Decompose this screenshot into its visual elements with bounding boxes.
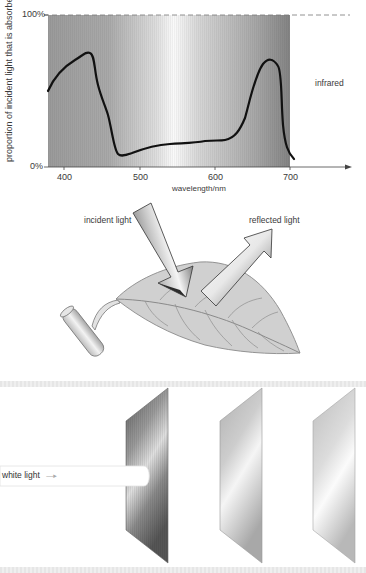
- filter-diagram: white light —▸: [0, 387, 366, 567]
- filter-panel-2: [220, 388, 262, 563]
- leaf-diagram: incident light reflected light: [0, 190, 366, 375]
- x-tick-600: 600: [208, 172, 223, 182]
- x-tick-700: 700: [283, 172, 298, 182]
- x-tick-400: 400: [57, 172, 72, 182]
- y-tick-100: 100%: [22, 9, 45, 19]
- y-tick-0: 0%: [30, 161, 43, 171]
- leaf-stem: [92, 300, 120, 330]
- white-light-label: white light —▸: [2, 470, 57, 480]
- infrared-label: infrared: [315, 78, 344, 88]
- beam-arrow-icon: —▸: [46, 472, 57, 479]
- bottom-separator-band: [0, 567, 366, 573]
- leaf-graphics: [0, 190, 366, 375]
- x-axis-arrow-icon: [345, 165, 352, 170]
- x-tick-500: 500: [133, 172, 148, 182]
- reflected-light-label: reflected light: [249, 215, 300, 225]
- filter-panel-3: [313, 388, 355, 563]
- white-light-text: white light: [2, 470, 40, 480]
- y-axis-label: proportion of incident light that is abs…: [4, 12, 14, 162]
- incident-light-label: incident light: [84, 215, 131, 225]
- chart-graphics: [0, 0, 366, 190]
- absorption-chart: proportion of incident light that is abs…: [0, 0, 366, 190]
